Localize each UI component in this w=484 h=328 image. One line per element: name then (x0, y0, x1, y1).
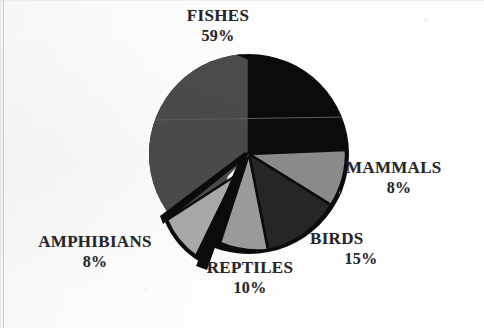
slice-label-amphibians-value: 8% (14, 253, 176, 272)
slice-label-birds-name: BIRDS (310, 229, 430, 249)
slice-label-mammals-value: 8% (346, 179, 480, 198)
slice-label-mammals-name: MAMMALS (346, 158, 480, 178)
slice-label-amphibians-name: AMPHIBIANS (14, 232, 176, 252)
slice-label-fishes-name: FISHES (128, 6, 308, 26)
slice-label-fishes: FISHES 59% (128, 6, 308, 45)
slice-label-reptiles-name: REPTILES (178, 258, 322, 278)
slice-label-birds-value: 15% (310, 250, 430, 269)
chart-frame: FISHES 59% MAMMALS 8% BIRDS 15% REPTILES… (0, 0, 484, 328)
slice-label-reptiles: REPTILES 10% (178, 258, 322, 297)
slice-label-amphibians: AMPHIBIANS 8% (14, 232, 176, 271)
slice-label-reptiles-value: 10% (178, 279, 322, 298)
slice-label-birds: BIRDS 15% (310, 229, 430, 268)
slice-label-mammals: MAMMALS 8% (346, 158, 480, 197)
slice-label-fishes-value: 59% (128, 27, 308, 46)
